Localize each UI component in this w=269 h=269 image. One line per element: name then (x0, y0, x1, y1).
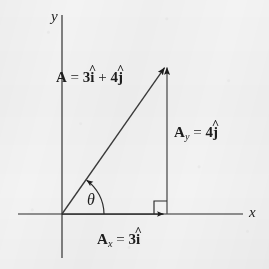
vector-a-symbol: A (56, 69, 67, 85)
vector-ay-equals: = (193, 124, 201, 140)
i-hat-unit-vector: ^i (90, 70, 94, 85)
vector-a-arrow (62, 68, 165, 214)
right-angle-marker (154, 201, 167, 214)
x-axis-label: x (249, 205, 256, 220)
vector-a-label: A = 3^i + 4^j (56, 70, 123, 85)
i-hat-unit-vector-component: ^i (136, 232, 140, 247)
vector-ax-symbol: A (97, 231, 108, 247)
vector-ax-label: Ax = 3^i (97, 232, 140, 249)
vector-a-plus: + (98, 69, 106, 85)
vector-a-equals: = (71, 69, 79, 85)
hat-accent-i-component: ^ (134, 225, 142, 238)
vector-ay-symbol: A (174, 124, 185, 140)
vector-ay-label: Ay = 4^j (174, 125, 218, 142)
angle-theta-label: θ (87, 192, 95, 208)
hat-accent-j-component: ^ (212, 118, 220, 131)
vector-diagram-figure: y x θ A = 3^i + 4^j Ay = 4^j Ax = 3^i (0, 0, 269, 269)
vector-ax-equals: = (116, 231, 124, 247)
hat-accent-i: ^ (89, 63, 97, 76)
y-axis-label: y (51, 9, 58, 24)
hat-accent-j: ^ (117, 63, 125, 76)
j-hat-unit-vector: ^j (118, 70, 123, 85)
j-hat-unit-vector-component: ^j (213, 125, 218, 140)
